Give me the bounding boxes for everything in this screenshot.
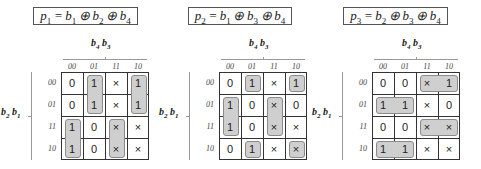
cell-value: 1 — [438, 72, 460, 94]
row-brace — [189, 72, 194, 160]
dont-care-cell: × — [263, 72, 285, 94]
kmap-grid-p2: 01×110×010××01×× — [219, 72, 307, 160]
dont-care-cell: × — [105, 116, 127, 138]
dont-care-cell: × — [285, 138, 307, 160]
dont-care-cell: × — [263, 138, 285, 160]
column-tick-10: 10 — [285, 62, 307, 71]
row-tick-01: 01 — [42, 94, 56, 116]
cell-value: 0 — [372, 116, 394, 138]
column-tick-10: 10 — [127, 62, 149, 71]
dont-care-cell: × — [127, 116, 149, 138]
dont-care-cell: × — [416, 94, 438, 116]
cell-value: 0 — [61, 72, 83, 94]
cell-value: 0 — [83, 138, 105, 160]
column-tick-01: 01 — [83, 62, 105, 71]
row-variable-label: b2 b1 — [1, 106, 21, 120]
kmap-grid-p3: 00×111×000××11×× — [372, 72, 460, 160]
column-variable-label: b4 b3 — [402, 37, 422, 51]
cell-value: 1 — [219, 94, 241, 116]
cell-value: 1 — [127, 94, 149, 116]
cell-value: 0 — [241, 116, 263, 138]
column-tick-11: 11 — [416, 62, 438, 71]
kmap-grid-p1: 01×101×110××10×× — [61, 72, 149, 160]
row-brace — [342, 72, 347, 160]
row-tick-00: 00 — [353, 72, 367, 94]
row-tick-00: 00 — [42, 72, 56, 94]
row-tick-10: 10 — [200, 138, 214, 160]
row-brace — [31, 72, 36, 160]
column-tick-10: 10 — [438, 62, 460, 71]
cell-value: 1 — [241, 72, 263, 94]
cell-value: 0 — [438, 94, 460, 116]
cell-value: 1 — [61, 138, 83, 160]
cell-value: 0 — [394, 72, 416, 94]
cell-value: 1 — [83, 72, 105, 94]
row-tick-11: 11 — [42, 116, 56, 138]
column-tick-00: 00 — [61, 62, 83, 71]
dont-care-cell: × — [127, 138, 149, 160]
dont-care-cell: × — [416, 138, 438, 160]
cell-value: 0 — [372, 72, 394, 94]
dont-care-cell: × — [416, 72, 438, 94]
row-tick-01: 01 — [200, 94, 214, 116]
dont-care-cell: × — [105, 138, 127, 160]
row-tick-10: 10 — [42, 138, 56, 160]
dont-care-cell: × — [438, 116, 460, 138]
cell-value: 1 — [372, 138, 394, 160]
column-tick-01: 01 — [241, 62, 263, 71]
cell-value: 1 — [219, 116, 241, 138]
row-tick-11: 11 — [353, 116, 367, 138]
row-tick-10: 10 — [353, 138, 367, 160]
cell-value: 0 — [285, 94, 307, 116]
column-tick-11: 11 — [263, 62, 285, 71]
dont-care-cell: × — [285, 116, 307, 138]
equation-box-p3: p3 = b2 ⊕ b3 ⊕ b4 — [343, 7, 448, 25]
cell-value: 0 — [394, 116, 416, 138]
row-variable-label: b2 b1 — [159, 106, 179, 120]
row-tick-01: 01 — [353, 94, 367, 116]
column-tick-00: 00 — [372, 62, 394, 71]
cell-value: 1 — [285, 72, 307, 94]
cell-value: 0 — [83, 116, 105, 138]
cell-value: 1 — [83, 94, 105, 116]
cell-value: 0 — [241, 94, 263, 116]
equation-box-p1: p1 = b1 ⊕ b2 ⊕ b4 — [33, 7, 138, 25]
row-tick-11: 11 — [200, 116, 214, 138]
column-tick-01: 01 — [394, 62, 416, 71]
cell-value: 0 — [219, 72, 241, 94]
cell-value: 0 — [61, 94, 83, 116]
dont-care-cell: × — [438, 138, 460, 160]
row-tick-00: 00 — [200, 72, 214, 94]
cell-value: 1 — [241, 138, 263, 160]
column-variable-label: b4 b3 — [91, 37, 111, 51]
cell-value: 1 — [61, 116, 83, 138]
dont-care-cell: × — [416, 116, 438, 138]
dont-care-cell: × — [263, 116, 285, 138]
row-variable-label: b2 b1 — [312, 106, 332, 120]
cell-value: 1 — [372, 94, 394, 116]
column-tick-11: 11 — [105, 62, 127, 71]
column-variable-label: b4 b3 — [249, 37, 269, 51]
cell-value: 0 — [219, 138, 241, 160]
cell-value: 1 — [394, 94, 416, 116]
equation-box-p2: p2 = b1 ⊕ b3 ⊕ b4 — [188, 7, 292, 25]
cell-value: 1 — [394, 138, 416, 160]
column-tick-00: 00 — [219, 62, 241, 71]
dont-care-cell: × — [105, 94, 127, 116]
dont-care-cell: × — [263, 94, 285, 116]
dont-care-cell: × — [105, 72, 127, 94]
cell-value: 1 — [127, 72, 149, 94]
